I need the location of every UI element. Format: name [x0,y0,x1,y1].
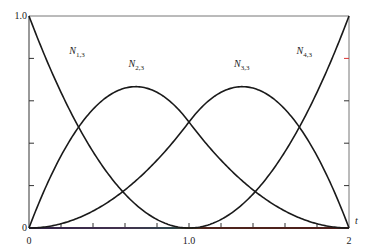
curve-n2-3 [29,87,349,228]
axis-ticks [29,58,349,228]
curve-labels: N1,3N2,3N3,3N4,3 [68,45,312,72]
x-tick-label: 1.0 [183,235,196,246]
x-tick-label: 2 [347,235,352,246]
x-axis-label: t [355,215,358,226]
y-tick-label: 0 [22,222,27,233]
y-tick-label: 1.0 [15,10,28,21]
curve-label: N2,3 [127,58,144,72]
curve-label: N1,3 [68,45,85,59]
curve-label: N3,3 [233,58,250,72]
x-tick-label: 0 [27,235,32,246]
curve-label: N4,3 [295,45,312,59]
curve-n3-3 [29,87,349,228]
bspline-basis-chart: 01.0201.0 N1,3N2,3N3,3N4,3 t [0,0,369,249]
